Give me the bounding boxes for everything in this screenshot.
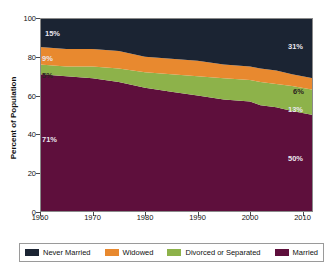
legend-item-never-married[interactable]: Never Married: [25, 249, 91, 257]
x-tick-label-2000: 2000: [230, 214, 270, 222]
legend-label-divorced-or-separated: Divorced or Separated: [185, 249, 260, 257]
legend-swatch-widowed: [105, 249, 119, 256]
x-tick-label-1960: 1960: [20, 214, 60, 222]
y-tick-label-80: 80: [8, 54, 36, 62]
value-label-never-married-left: 15%: [45, 30, 60, 38]
legend-item-married[interactable]: Married: [275, 249, 318, 257]
value-label-divorced-left: 5%: [42, 72, 53, 80]
legend-label-married: Married: [293, 249, 318, 257]
x-tick-label-1990: 1990: [178, 214, 218, 222]
value-label-widowed-left: 9%: [42, 55, 53, 63]
value-label-divorced-right: 13%: [288, 106, 303, 114]
legend-item-divorced-or-separated[interactable]: Divorced or Separated: [167, 249, 260, 257]
y-tick-label-60: 60: [8, 93, 36, 101]
y-tick-label-100: 100: [8, 15, 36, 23]
y-tick-label-20: 20: [8, 170, 36, 178]
plot-area: [40, 18, 313, 212]
x-tick-label-1980: 1980: [125, 214, 165, 222]
y-tick-label-40: 40: [8, 131, 36, 139]
legend-swatch-divorced-or-separated: [167, 249, 181, 256]
chart-legend: Never Married Widowed Divorced or Separa…: [19, 243, 324, 262]
legend-swatch-never-married: [25, 249, 39, 256]
x-tick-label-2010: 2010: [283, 214, 323, 222]
legend-item-widowed[interactable]: Widowed: [105, 249, 154, 257]
legend-swatch-married: [275, 249, 289, 256]
stacked-area-series: [40, 18, 313, 212]
value-label-married-left: 71%: [42, 136, 57, 144]
legend-label-widowed: Widowed: [123, 249, 154, 257]
y-axis-title-label: Percent of Population: [9, 58, 18, 178]
value-label-married-right: 50%: [288, 155, 303, 163]
y-axis-title: Percent of Population: [0, 0, 8, 58]
legend-label-never-married: Never Married: [43, 249, 91, 257]
chart-figure: Percent of Population 100 80 60 40 20 0 …: [0, 0, 334, 269]
value-label-widowed-right: 6%: [293, 88, 304, 96]
x-tick-label-1970: 1970: [73, 214, 113, 222]
value-label-never-married-right: 31%: [288, 43, 303, 51]
